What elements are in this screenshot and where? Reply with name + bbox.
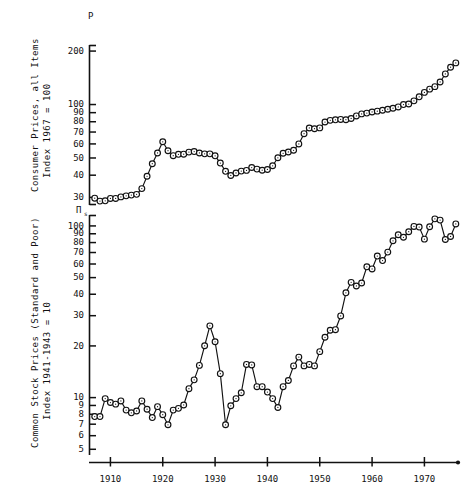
data-point-center-dot: [110, 198, 111, 199]
data-point-center-dot: [403, 237, 404, 238]
data-point-center-dot: [136, 194, 137, 195]
data-point-center-dot: [293, 365, 294, 366]
data-point-center-dot: [424, 92, 425, 93]
data-point-center-dot: [356, 285, 357, 286]
data-point-center-dot: [199, 152, 200, 153]
data-point-center-dot: [262, 170, 263, 171]
data-point-center-dot: [450, 236, 451, 237]
data-point-center-dot: [204, 153, 205, 154]
data-point-center-dot: [126, 195, 127, 196]
data-point-center-dot: [335, 119, 336, 120]
data-point-center-dot: [387, 109, 388, 110]
data-point-center-dot: [293, 150, 294, 151]
data-point-center-dot: [366, 112, 367, 113]
data-point-center-dot: [319, 127, 320, 128]
data-point-center-dot: [413, 100, 414, 101]
data-point-center-dot: [434, 218, 435, 219]
data-point-center-dot: [188, 388, 189, 389]
data-point-center-dot: [230, 405, 231, 406]
x-axis-tick-label: 1920: [152, 474, 174, 484]
data-point-center-dot: [324, 121, 325, 122]
x-axis-tick-label: 1950: [309, 474, 331, 484]
top-panel-y-ticks: 20010090807060504030: [68, 46, 96, 202]
data-point-center-dot: [246, 364, 247, 365]
data-point-center-dot: [115, 404, 116, 405]
x-axis-tick-label: 1930: [204, 474, 226, 484]
data-point-center-dot: [235, 398, 236, 399]
data-point-center-dot: [110, 402, 111, 403]
data-point-center-dot: [361, 282, 362, 283]
data-point-center-dot: [371, 268, 372, 269]
data-point-center-dot: [225, 424, 226, 425]
data-point-center-dot: [335, 329, 336, 330]
data-point-center-dot: [230, 175, 231, 176]
data-point-center-dot: [445, 73, 446, 74]
data-point-center-dot: [382, 110, 383, 111]
data-point-center-dot: [105, 398, 106, 399]
x-axis-end-dot: [456, 460, 460, 464]
data-point-center-dot: [298, 356, 299, 357]
data-point-center-dot: [167, 424, 168, 425]
data-point-center-dot: [398, 234, 399, 235]
data-point-center-dot: [283, 386, 284, 387]
data-point-center-dot: [246, 170, 247, 171]
panel-consumer-prices: P Consumer Prices, all Items Index 1967 …: [30, 11, 459, 205]
data-point-center-dot: [183, 154, 184, 155]
data-point-center-dot: [377, 255, 378, 256]
data-point-center-dot: [157, 152, 158, 153]
axis-tick-label: 60: [73, 259, 84, 269]
data-point-center-dot: [194, 151, 195, 152]
data-point-center-dot: [413, 226, 414, 227]
data-point-center-dot: [131, 412, 132, 413]
data-point-center-dot: [377, 111, 378, 112]
data-point-center-dot: [371, 111, 372, 112]
data-point-center-dot: [199, 365, 200, 366]
data-point-center-dot: [434, 86, 435, 87]
data-point-center-dot: [366, 266, 367, 267]
data-point-center-dot: [309, 364, 310, 365]
data-point-center-dot: [214, 155, 215, 156]
data-point-center-dot: [157, 406, 158, 407]
bottom-panel-symbol-subscript: s: [84, 210, 88, 217]
data-point-center-dot: [204, 345, 205, 346]
data-point-center-dot: [330, 120, 331, 121]
data-point-center-dot: [408, 103, 409, 104]
data-point-center-dot: [183, 404, 184, 405]
data-point-center-dot: [277, 157, 278, 158]
data-polyline: [95, 219, 456, 425]
data-point-center-dot: [256, 386, 257, 387]
data-point-center-dot: [235, 172, 236, 173]
data-point-center-dot: [345, 119, 346, 120]
axis-tick-label: 7: [79, 419, 84, 429]
two-panel-log-chart: P Consumer Prices, all Items Index 1967 …: [0, 0, 474, 504]
bottom-panel-axis-title-line2: Index 1941-1943 = 10: [42, 302, 52, 420]
data-point-center-dot: [173, 155, 174, 156]
data-point-center-dot: [120, 400, 121, 401]
data-point-center-dot: [314, 365, 315, 366]
data-point-center-dot: [298, 143, 299, 144]
data-point-center-dot: [152, 163, 153, 164]
top-panel-data-line: [95, 63, 456, 201]
data-point-center-dot: [445, 239, 446, 240]
data-point-center-dot: [419, 96, 420, 97]
axis-tick-label: 8: [79, 409, 84, 419]
data-point-center-dot: [115, 198, 116, 199]
data-point-center-dot: [241, 170, 242, 171]
axis-tick-label: 70: [73, 127, 84, 137]
data-point-center-dot: [146, 176, 147, 177]
data-point-center-dot: [220, 373, 221, 374]
data-point-center-dot: [188, 152, 189, 153]
figure-root: P Consumer Prices, all Items Index 1967 …: [0, 0, 474, 504]
data-point-center-dot: [309, 127, 310, 128]
data-point-center-dot: [162, 141, 163, 142]
data-point-center-dot: [303, 365, 304, 366]
data-point-center-dot: [361, 113, 362, 114]
bottom-panel-y-ticks: 10090807060504030201098765: [68, 221, 96, 454]
data-point-center-dot: [146, 409, 147, 410]
data-point-center-dot: [220, 162, 221, 163]
data-point-center-dot: [120, 196, 121, 197]
axis-tick-label: 40: [73, 170, 84, 180]
data-point-center-dot: [303, 133, 304, 134]
data-point-center-dot: [288, 151, 289, 152]
data-point-center-dot: [225, 171, 226, 172]
